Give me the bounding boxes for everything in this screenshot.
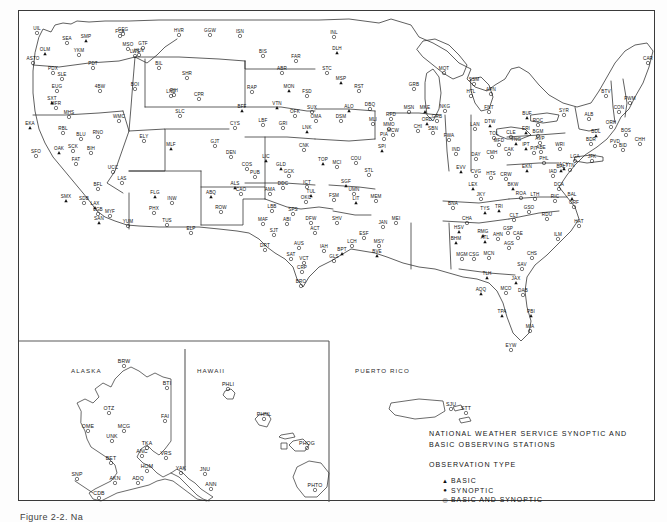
station-marker: CAR: [643, 56, 654, 65]
station-marker: SMX: [61, 194, 71, 202]
station-marker: LBB: [267, 204, 276, 213]
station-marker: PDT: [88, 61, 98, 70]
station-marker: MSP: [336, 76, 346, 84]
station-label: MSN: [404, 105, 415, 110]
station-marker: DDC: [278, 181, 289, 190]
great-lakes: [417, 39, 467, 79]
station-marker: LAN: [470, 122, 479, 131]
station-label: LBF: [259, 118, 268, 123]
station-marker: SEA: [62, 36, 72, 45]
station-marker: BKW: [508, 182, 519, 190]
legend-entry-label: BASIC: [451, 477, 477, 484]
station-label: ISN: [236, 29, 244, 34]
station-label: CPR: [194, 92, 205, 97]
station-marker: ACT: [310, 226, 320, 235]
conus-stations: UILSEASMPOLMASTOYKMGEGLWSPDTPDXSLEEUG4BW…: [25, 26, 653, 352]
station-label: SSM: [469, 77, 479, 82]
station-marker: FNT: [484, 105, 493, 114]
station-label: CHS: [527, 251, 537, 256]
station-marker: ICT: [303, 180, 311, 189]
station-marker: MCI: [333, 160, 342, 169]
station-label: MEM: [370, 194, 381, 199]
station-label: BIL: [155, 61, 163, 66]
station-label: ANN: [205, 481, 217, 487]
station-label: MFR: [51, 101, 62, 106]
station-label: BDL: [591, 129, 601, 134]
station-label: RDU: [542, 212, 552, 217]
station-marker: TRI: [495, 204, 503, 212]
station-label: SAT: [286, 252, 295, 257]
puerto-rico-stations: SJUSTT: [446, 401, 472, 415]
station-marker: YAK: [176, 465, 187, 475]
station-label: TTN: [565, 163, 574, 168]
station-marker: AQQ: [476, 287, 487, 295]
station-marker: JKY: [477, 192, 486, 201]
station-label: ABR: [277, 66, 287, 71]
station-marker: CAK: [504, 147, 515, 156]
station-marker: MAF: [258, 217, 268, 226]
station-marker: HAT: [574, 219, 583, 228]
station-label: HTS: [486, 171, 496, 176]
station-marker: SAT: [286, 252, 295, 261]
border-id-west: [129, 57, 135, 131]
station-label: MHS: [64, 110, 75, 115]
station-marker: PHLI: [222, 381, 234, 391]
station-marker: OME: [82, 423, 95, 433]
station-label: LND: [166, 89, 176, 94]
station-label: INW: [167, 196, 177, 201]
station-marker: HTL: [466, 89, 475, 98]
station-marker: BET: [106, 455, 117, 465]
station-marker: GGW: [204, 28, 216, 37]
station-label: JAX: [512, 276, 521, 281]
station-label: BKW: [508, 182, 519, 187]
alaska-label: ALASKA: [71, 367, 102, 374]
station-marker: IAH: [320, 244, 328, 253]
station-label: WRI: [555, 142, 564, 147]
station-marker: CHS: [527, 251, 537, 260]
station-label: ANC: [136, 448, 148, 454]
station-label: BPT: [337, 247, 346, 252]
station-marker: SUX: [307, 105, 317, 114]
station-label: RAP: [247, 85, 257, 90]
station-marker: CON: [614, 105, 625, 114]
station-label: PHOG: [299, 440, 315, 446]
station-label: IPT: [522, 142, 530, 147]
station-label: BNA: [448, 201, 459, 206]
legend-subtitle: OBSERVATION TYPE: [429, 461, 667, 469]
station-label: PHL: [539, 156, 549, 161]
station-marker: SJT: [270, 228, 279, 237]
station-marker: BHM: [451, 236, 462, 244]
station-label: JAN: [378, 220, 387, 225]
station-marker: HSV: [454, 225, 465, 233]
station-marker: BIH: [87, 146, 95, 155]
station-marker: BID: [619, 143, 628, 152]
station-marker: UIL: [33, 26, 41, 35]
border-ia-mo: [315, 139, 375, 141]
station-label: FLG: [150, 190, 160, 195]
station-label: CRP: [297, 265, 307, 270]
station-label: UMN: [349, 187, 360, 192]
border-vt-nh: [611, 81, 615, 123]
station-label: BGM: [533, 129, 544, 134]
station-label: YAK: [176, 465, 187, 471]
station-marker: SHR: [182, 71, 193, 80]
station-marker: OMA: [311, 114, 323, 123]
station-marker: ANN: [205, 481, 217, 491]
station-marker: PHX: [149, 206, 159, 215]
station-label: DBQ: [365, 102, 376, 107]
station-label: CYS: [230, 121, 240, 126]
station-marker: CRP: [297, 265, 307, 274]
station-marker: JAN: [378, 220, 387, 229]
station-marker: PUB: [250, 170, 260, 179]
station-marker: HTS: [486, 171, 496, 180]
station-label: GRB: [409, 82, 419, 87]
station-label: RIC: [551, 194, 560, 199]
station-marker: IND: [452, 147, 461, 156]
station-label: EKA: [25, 121, 35, 126]
station-marker: LAS: [117, 176, 126, 185]
legend-entries: ▲BASIC●SYNOPTIC◎BASIC AND SYNOPTIC: [439, 476, 667, 505]
station-label: GGW: [204, 28, 216, 33]
station-label: NKG: [440, 104, 451, 109]
station-label: ATL: [481, 235, 490, 240]
station-label: SLE: [57, 72, 66, 77]
